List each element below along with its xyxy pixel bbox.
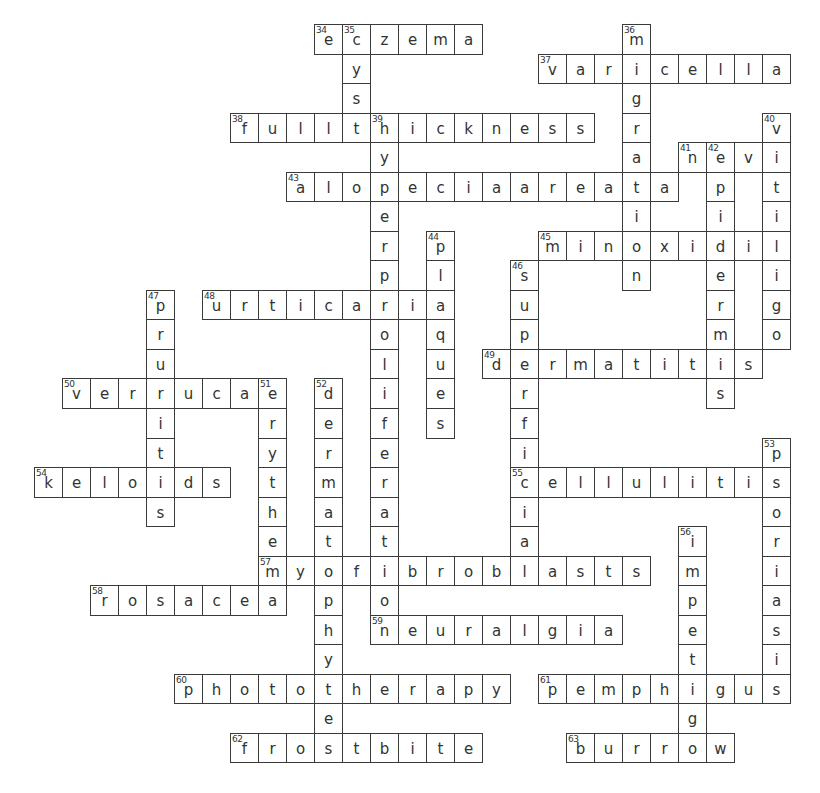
crossword-cell[interactable]: r: [370, 290, 399, 321]
crossword-cell[interactable]: r: [258, 733, 287, 764]
crossword-cell[interactable]: a: [426, 290, 455, 321]
crossword-cell[interactable]: 35c: [342, 24, 371, 55]
crossword-cell[interactable]: t: [370, 526, 399, 557]
crossword-cell[interactable]: w: [706, 733, 735, 764]
crossword-cell[interactable]: s: [734, 349, 763, 380]
crossword-cell[interactable]: e: [398, 172, 427, 203]
crossword-cell[interactable]: s: [566, 113, 595, 144]
crossword-cell[interactable]: m: [314, 467, 343, 498]
crossword-cell[interactable]: i: [706, 201, 735, 232]
crossword-cell[interactable]: a: [230, 378, 259, 409]
crossword-cell[interactable]: h: [202, 674, 231, 705]
crossword-cell[interactable]: t: [678, 349, 707, 380]
crossword-cell[interactable]: e: [314, 408, 343, 439]
crossword-cell[interactable]: s: [202, 467, 231, 498]
crossword-cell[interactable]: 38f: [230, 113, 259, 144]
crossword-cell[interactable]: a: [594, 615, 623, 646]
crossword-cell[interactable]: t: [146, 438, 175, 469]
crossword-cell[interactable]: o: [370, 319, 399, 350]
crossword-cell[interactable]: i: [398, 733, 427, 764]
crossword-cell[interactable]: 50v: [62, 378, 91, 409]
crossword-cell[interactable]: r: [146, 378, 175, 409]
crossword-cell[interactable]: e: [398, 24, 427, 55]
crossword-cell[interactable]: i: [734, 467, 763, 498]
crossword-cell[interactable]: s: [622, 556, 651, 587]
crossword-cell[interactable]: n: [622, 260, 651, 291]
crossword-cell[interactable]: e: [510, 349, 539, 380]
crossword-cell[interactable]: t: [622, 349, 651, 380]
crossword-cell[interactable]: 41n: [678, 142, 707, 173]
crossword-cell[interactable]: s: [762, 467, 791, 498]
crossword-cell[interactable]: a: [650, 172, 679, 203]
crossword-cell[interactable]: f: [342, 556, 371, 587]
crossword-cell[interactable]: u: [622, 467, 651, 498]
crossword-cell[interactable]: s: [706, 378, 735, 409]
crossword-cell[interactable]: g: [762, 290, 791, 321]
crossword-cell[interactable]: l: [426, 260, 455, 291]
crossword-cell[interactable]: o: [314, 556, 343, 587]
crossword-cell[interactable]: 58r: [90, 585, 119, 616]
crossword-cell[interactable]: t: [258, 467, 287, 498]
crossword-cell[interactable]: l: [650, 467, 679, 498]
crossword-cell[interactable]: r: [762, 526, 791, 557]
crossword-cell[interactable]: g: [622, 83, 651, 114]
crossword-cell[interactable]: p: [622, 674, 651, 705]
crossword-cell[interactable]: e: [538, 467, 567, 498]
crossword-cell[interactable]: p: [454, 674, 483, 705]
crossword-cell[interactable]: o: [454, 556, 483, 587]
crossword-cell[interactable]: y: [286, 556, 315, 587]
crossword-cell[interactable]: x: [650, 231, 679, 262]
crossword-cell[interactable]: f: [510, 408, 539, 439]
crossword-cell[interactable]: l: [286, 113, 315, 144]
crossword-cell[interactable]: i: [146, 467, 175, 498]
crossword-cell[interactable]: r: [650, 733, 679, 764]
crossword-cell[interactable]: i: [734, 231, 763, 262]
crossword-cell[interactable]: o: [622, 231, 651, 262]
crossword-cell[interactable]: 48u: [202, 290, 231, 321]
crossword-cell[interactable]: a: [454, 24, 483, 55]
crossword-cell[interactable]: a: [622, 142, 651, 173]
crossword-cell[interactable]: a: [510, 526, 539, 557]
crossword-cell[interactable]: t: [594, 556, 623, 587]
crossword-cell[interactable]: a: [538, 556, 567, 587]
crossword-cell[interactable]: a: [174, 585, 203, 616]
crossword-cell[interactable]: p: [510, 319, 539, 350]
crossword-cell[interactable]: p: [678, 585, 707, 616]
crossword-cell[interactable]: i: [510, 438, 539, 469]
crossword-cell[interactable]: e: [258, 526, 287, 557]
crossword-cell[interactable]: r: [594, 54, 623, 85]
crossword-cell[interactable]: i: [762, 142, 791, 173]
crossword-cell[interactable]: 62f: [230, 733, 259, 764]
crossword-cell[interactable]: i: [454, 172, 483, 203]
crossword-cell[interactable]: i: [762, 201, 791, 232]
crossword-cell[interactable]: r: [370, 231, 399, 262]
crossword-cell[interactable]: b: [482, 556, 511, 587]
crossword-cell[interactable]: y: [314, 644, 343, 675]
crossword-cell[interactable]: r: [230, 290, 259, 321]
crossword-cell[interactable]: r: [146, 319, 175, 350]
crossword-cell[interactable]: i: [762, 260, 791, 291]
crossword-cell[interactable]: t: [342, 733, 371, 764]
crossword-cell[interactable]: t: [342, 113, 371, 144]
crossword-cell[interactable]: r: [398, 674, 427, 705]
crossword-cell[interactable]: y: [482, 674, 511, 705]
crossword-cell[interactable]: l: [594, 467, 623, 498]
crossword-cell[interactable]: s: [146, 585, 175, 616]
crossword-cell[interactable]: s: [426, 408, 455, 439]
crossword-cell[interactable]: r: [622, 113, 651, 144]
crossword-cell[interactable]: t: [314, 526, 343, 557]
crossword-cell[interactable]: p: [370, 172, 399, 203]
crossword-cell[interactable]: 53p: [762, 438, 791, 469]
crossword-cell[interactable]: t: [314, 674, 343, 705]
crossword-cell[interactable]: 36m: [622, 24, 651, 55]
crossword-cell[interactable]: 44p: [426, 231, 455, 262]
crossword-cell[interactable]: t: [258, 290, 287, 321]
crossword-cell[interactable]: l: [510, 556, 539, 587]
crossword-cell[interactable]: o: [370, 585, 399, 616]
crossword-cell[interactable]: g: [678, 703, 707, 734]
crossword-cell[interactable]: 46s: [510, 260, 539, 291]
crossword-cell[interactable]: e: [62, 467, 91, 498]
crossword-cell[interactable]: g: [538, 615, 567, 646]
crossword-cell[interactable]: e: [314, 703, 343, 734]
crossword-cell[interactable]: h: [650, 674, 679, 705]
